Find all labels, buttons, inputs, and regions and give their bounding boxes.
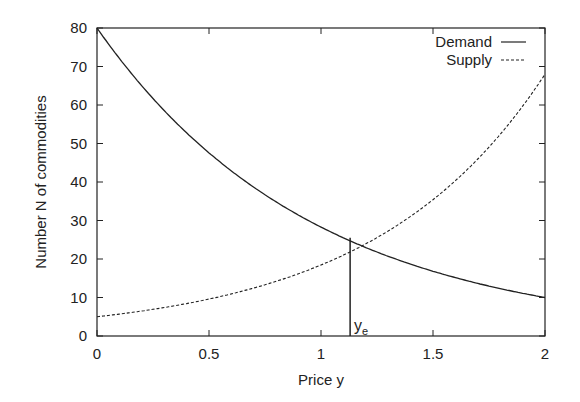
curves	[97, 28, 545, 336]
legend: Demand Supply	[435, 33, 526, 68]
y-tick-label: 70	[70, 58, 87, 75]
legend-supply-label: Supply	[446, 51, 492, 68]
demand-curve	[97, 28, 545, 298]
x-tick-label: 1	[317, 345, 325, 362]
y-tick-label: 50	[70, 135, 87, 152]
y-tick-label: 60	[70, 96, 87, 113]
plot-frame	[97, 28, 545, 336]
svg-text:ye: ye	[354, 317, 368, 337]
y-axis-label: Number N of commodities	[32, 95, 49, 268]
y-tick-label: 0	[79, 327, 87, 344]
x-tick-label: 0.5	[199, 345, 220, 362]
y-tick-label: 40	[70, 173, 87, 190]
y-tick-label: 20	[70, 250, 87, 267]
axes: 00.511.5201020304050607080Price yNumber …	[32, 19, 549, 388]
equilibrium-label: ye	[354, 317, 368, 337]
x-tick-label: 2	[541, 345, 549, 362]
legend-demand-label: Demand	[435, 33, 492, 50]
y-tick-label: 10	[70, 289, 87, 306]
supply-demand-chart: 00.511.5201020304050607080Price yNumber …	[0, 0, 580, 402]
y-tick-label: 80	[70, 19, 87, 36]
x-axis-label: Price y	[298, 371, 344, 388]
x-tick-label: 0	[93, 345, 101, 362]
x-tick-label: 1.5	[423, 345, 444, 362]
y-tick-label: 30	[70, 212, 87, 229]
